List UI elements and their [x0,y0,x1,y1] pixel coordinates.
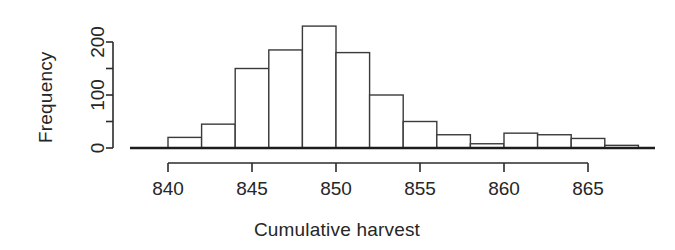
x-axis-tick-label: 855 [404,178,436,199]
histogram-bar [235,69,269,149]
histogram-bar [403,122,437,149]
x-axis-title: Cumulative harvest [254,219,421,240]
histogram-bar [437,135,471,148]
histogram-bar [504,133,538,148]
histogram-bar [370,95,404,148]
y-axis-tick-labels: 0100200 [87,26,108,153]
histogram-bar [168,137,202,148]
x-axis-tick-labels: 840845850855860865 [152,178,604,199]
histogram-bar [269,50,303,148]
histogram-bar [571,138,605,148]
histogram-bar [302,26,336,148]
histogram-bar [538,135,572,148]
histogram-figure: Frequency 0100200 840845850855860865 Cum… [0,0,675,250]
histogram-bar [336,53,370,148]
histogram-bars [134,26,638,148]
x-axis-tick-label: 850 [320,178,352,199]
x-axis: 840845850855860865 [152,163,604,199]
y-axis-tick-label: 100 [87,79,108,111]
x-axis-tick-label: 845 [236,178,268,199]
x-axis-tick-label: 865 [572,178,604,199]
y-axis-tick-label: 200 [87,26,108,58]
histogram-bar [202,124,236,148]
histogram-canvas: Frequency 0100200 840845850855860865 Cum… [0,0,675,250]
y-axis-title: Frequency [35,51,56,143]
y-axis-tick-label: 0 [87,143,108,154]
x-axis-ticks [168,163,588,172]
x-axis-tick-label: 860 [488,178,520,199]
y-axis: 0100200 [87,26,114,153]
x-axis-tick-label: 840 [152,178,184,199]
